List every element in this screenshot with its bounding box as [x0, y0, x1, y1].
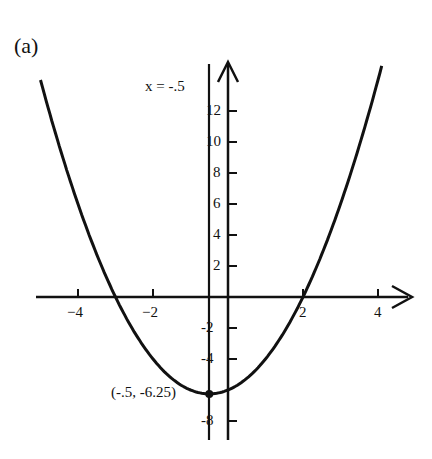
y-tick-label: 4 — [213, 227, 221, 242]
y-tick-label: 12 — [206, 103, 221, 118]
axis-of-symmetry-label: x = -.5 — [145, 79, 185, 94]
y-tick-label: 8 — [213, 165, 221, 180]
y-axis — [218, 62, 238, 440]
y-tick-label: -4 — [201, 351, 214, 366]
y-ticks — [228, 111, 237, 421]
x-tick-label: −4 — [67, 305, 83, 320]
x-tick-label: 4 — [374, 305, 382, 320]
vertex-point — [205, 390, 213, 398]
y-tick-label: -2 — [201, 320, 214, 335]
x-tick-label: −2 — [142, 305, 158, 320]
vertex-label: (-.5, -6.25) — [111, 385, 176, 400]
y-tick-label: 6 — [213, 196, 221, 211]
y-tick-label: 10 — [206, 134, 221, 149]
x-tick-label: 2 — [299, 305, 307, 320]
y-tick-label: 2 — [213, 258, 221, 273]
x-axis — [36, 286, 412, 308]
y-tick-label: -8 — [201, 413, 214, 428]
